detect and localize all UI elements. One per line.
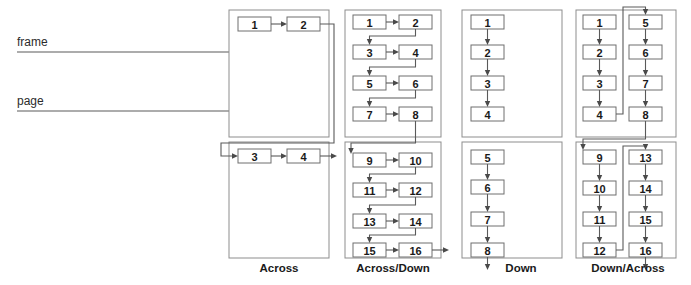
across-exit-arrowhead — [331, 153, 337, 158]
across-down-cell-10: 10 — [399, 153, 432, 167]
across-down-cell-14: 14 — [399, 214, 432, 228]
across-down-cell-11-label: 11 — [364, 185, 376, 197]
down-across-cell-12-label: 12 — [593, 245, 605, 257]
page-leader-label: page — [17, 94, 44, 108]
across-cell-2: 2 — [287, 17, 320, 31]
down-across-cell-5-label: 5 — [642, 17, 648, 29]
across-down-cell-1: 1 — [353, 15, 386, 29]
across-cell-1: 1 — [238, 17, 271, 31]
across-down-cell-3-label: 3 — [366, 47, 372, 59]
down-across-cell-16: 16 — [629, 243, 662, 257]
across-down-cell-8: 8 — [399, 107, 432, 121]
across-cell-3-label: 3 — [251, 151, 257, 163]
down-cell-2-label: 2 — [484, 47, 490, 59]
column-down-across: 1 2 3 4 5 6 7 — [576, 7, 676, 274]
down-across-cell-15: 15 — [629, 212, 662, 226]
down-across-cell-10: 10 — [583, 181, 616, 195]
down-cell-7: 7 — [471, 212, 504, 226]
down-cell-2: 2 — [471, 45, 504, 59]
down-across-cell-7-label: 7 — [642, 78, 648, 90]
across-cell-4-label: 4 — [300, 151, 307, 163]
across-down-cell-14-label: 14 — [409, 216, 422, 228]
down-cell-3-label: 3 — [484, 78, 490, 90]
across-down-cell-3: 3 — [353, 45, 386, 59]
across-down-cell-7-label: 7 — [366, 109, 372, 121]
down-across-cell-3-label: 3 — [596, 78, 602, 90]
down-across-cell-13: 13 — [629, 150, 662, 164]
across-down-cell-16: 16 — [399, 243, 432, 257]
across-down-cell-1-label: 1 — [366, 17, 372, 29]
down-across-cell-6: 6 — [629, 45, 662, 59]
down-across-cell-16-label: 16 — [639, 245, 651, 257]
down-across-cell-8-label: 8 — [642, 109, 648, 121]
across-down-cell-9: 9 — [353, 153, 386, 167]
column-down: 1 2 3 4 5 6 7 — [462, 10, 562, 274]
down-across-cell-3: 3 — [583, 76, 616, 90]
down-across-cell-11-label: 11 — [594, 214, 606, 226]
down-across-cell-7: 7 — [629, 76, 662, 90]
down-cell-4-label: 4 — [484, 109, 491, 121]
down-across-cell-12: 12 — [583, 243, 616, 257]
down-across-cell-2: 2 — [583, 45, 616, 59]
down-column-label: Down — [505, 262, 536, 274]
down-across-cell-8: 8 — [629, 107, 662, 121]
progression-diagram: frame page 1 2 3 4 — [0, 0, 691, 285]
down-across-column-label: Down/Across — [591, 262, 665, 274]
down-across-cell-10-label: 10 — [593, 183, 605, 195]
down-cell-6: 6 — [471, 180, 504, 194]
across-down-cell-11: 11 — [353, 183, 386, 197]
across-down-cell-12-label: 12 — [409, 185, 421, 197]
down-cell-1-label: 1 — [484, 17, 490, 29]
down-across-cell-6-label: 6 — [642, 47, 648, 59]
across-down-cell-13-label: 13 — [363, 216, 375, 228]
down-across-cell-9-label: 9 — [596, 152, 602, 164]
across-down-cell-2-label: 2 — [412, 17, 418, 29]
down-cell-5: 5 — [471, 150, 504, 164]
down-cell-3: 3 — [471, 76, 504, 90]
across-down-cell-6: 6 — [399, 76, 432, 90]
diagram-canvas: frame page 1 2 3 4 — [0, 0, 691, 285]
across-column-label: Across — [260, 262, 299, 274]
page-leader: page — [17, 94, 229, 111]
down-across-cell-15-label: 15 — [639, 214, 651, 226]
across-down-cell-5-label: 5 — [366, 78, 372, 90]
across-cell-1-label: 1 — [251, 19, 257, 31]
down-cell-6-label: 6 — [484, 182, 490, 194]
down-across-cell-4-label: 4 — [596, 109, 603, 121]
across-down-cell-4: 4 — [399, 45, 432, 59]
column-across: 1 2 3 4 Across — [221, 10, 337, 274]
across-cell-2-label: 2 — [300, 19, 306, 31]
down-cell-8-label: 8 — [484, 245, 490, 257]
across-down-cell-2: 2 — [399, 15, 432, 29]
frame-leader-label: frame — [17, 35, 48, 49]
across-down-exit-arrowhead — [443, 247, 449, 252]
across-down-cell-5: 5 — [353, 76, 386, 90]
across-down-cell-12: 12 — [399, 183, 432, 197]
down-across-cell-1: 1 — [583, 15, 616, 29]
down-across-cell-14: 14 — [629, 181, 662, 195]
across-down-cell-13: 13 — [353, 214, 386, 228]
across-down-cell-8-label: 8 — [412, 109, 418, 121]
across-down-cell-4-label: 4 — [412, 47, 419, 59]
across-down-cell-7: 7 — [353, 107, 386, 121]
across-down-cell-9-label: 9 — [366, 155, 372, 167]
down-exit-arrowhead — [485, 264, 490, 270]
down-across-cell-13-label: 13 — [639, 152, 651, 164]
down-across-cell-5: 5 — [629, 15, 662, 29]
across-down-cell-16-label: 16 — [409, 245, 421, 257]
down-across-cell-14-label: 14 — [639, 183, 652, 195]
across-down-cell-15: 15 — [353, 243, 386, 257]
down-cell-4: 4 — [471, 107, 504, 121]
down-cell-1: 1 — [471, 15, 504, 29]
down-across-cell-2-label: 2 — [596, 47, 602, 59]
down-across-cell-1-label: 1 — [596, 17, 602, 29]
down-across-cell-11: 11 — [583, 212, 616, 226]
down-across-cell-4: 4 — [583, 107, 616, 121]
column-across-down: 1 2 3 4 5 6 — [345, 10, 449, 274]
down-across-cell-9: 9 — [583, 150, 616, 164]
down-cell-8: 8 — [471, 243, 504, 257]
down-cell-5-label: 5 — [484, 152, 490, 164]
across-down-column-label: Across/Down — [356, 262, 430, 274]
across-cell-4: 4 — [287, 149, 320, 163]
across-cell-3: 3 — [238, 149, 271, 163]
